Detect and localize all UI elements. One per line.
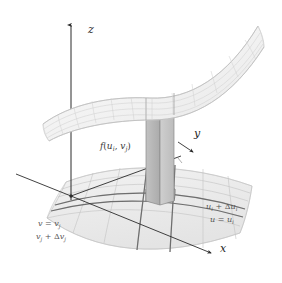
axis-label-y: y: [194, 128, 200, 140]
y-axis-base-ticks: [178, 158, 182, 163]
plus-sign: +: [213, 202, 225, 211]
label-u-equals-ui: u = ui: [210, 216, 234, 225]
ui-subscript: i: [232, 219, 234, 225]
axis-label-z: z: [88, 24, 94, 36]
v-subscript: j: [64, 236, 66, 242]
origin-point: [69, 194, 72, 197]
equals-sign: =: [43, 219, 55, 228]
axis-label-x: x: [220, 243, 226, 255]
surface-height-label: f(ui, vj): [100, 142, 131, 152]
prism-side-face: [160, 110, 174, 205]
equals-sign: =: [215, 215, 227, 224]
y-axis-arrow: [178, 142, 193, 152]
plus-sign: +: [42, 232, 54, 241]
riemann-prism: [146, 109, 174, 205]
u-subscript: i: [236, 206, 238, 212]
vj-subscript: j: [59, 223, 61, 229]
paren-close: ): [127, 141, 131, 151]
surface-integral-figure: z y x f(ui, vj) v = vj vj + Δvj ui + Δui…: [0, 0, 282, 283]
prism-front-face: [146, 113, 160, 205]
label-ui-plus-delta: ui + Δui: [206, 203, 237, 212]
x-axis-back-stub: [16, 174, 71, 196]
label-vj-plus-delta: vj + Δvj: [36, 233, 66, 242]
label-v-equals-vj: v = vj: [38, 220, 61, 229]
